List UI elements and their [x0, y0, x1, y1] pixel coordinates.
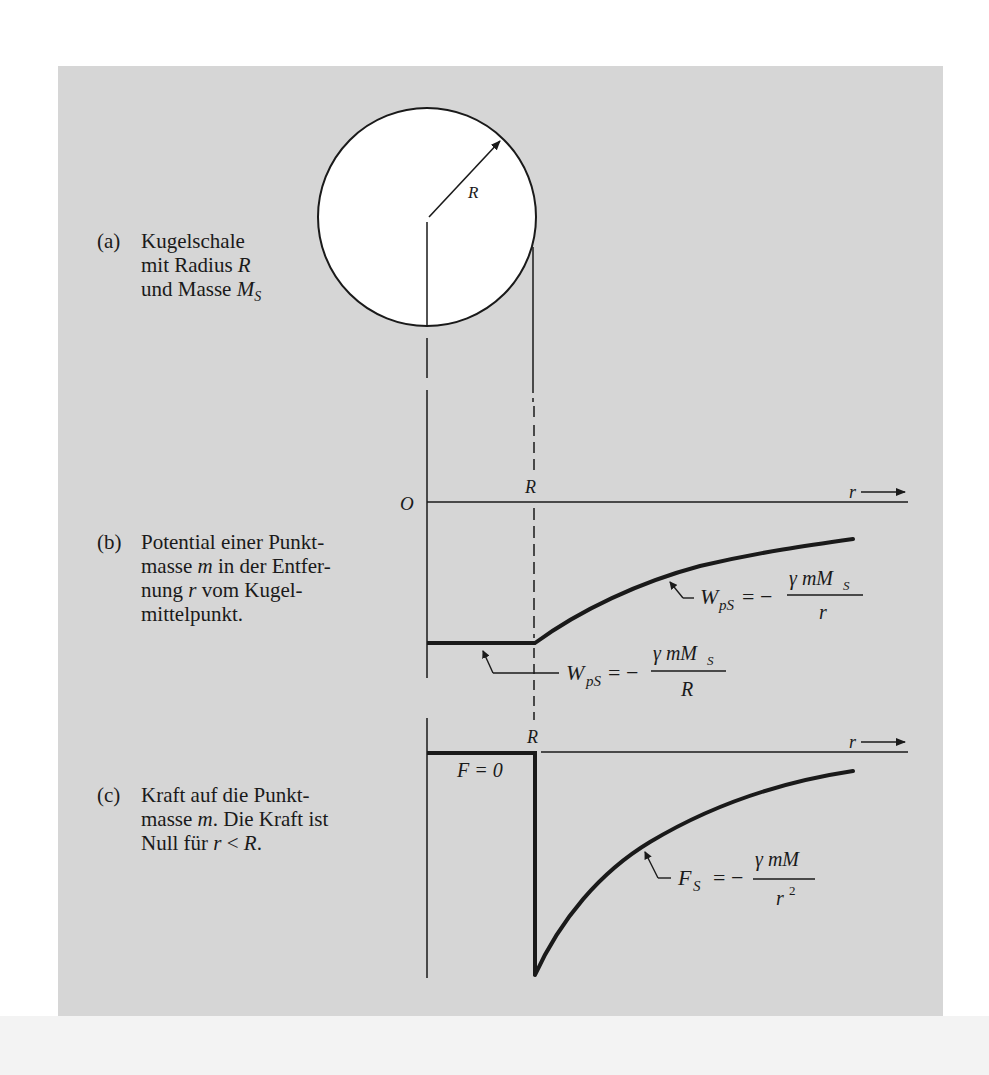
potential-plot: O R r W pS = − γ mM S r W pS = − γ mM [400, 477, 908, 700]
force-curve [535, 771, 853, 975]
svg-text:= −: = − [608, 660, 638, 685]
force-r-label: r [849, 732, 857, 752]
caption-a-tag: (a) [97, 229, 120, 253]
svg-text:r: r [776, 887, 784, 909]
force-zero-label: F = 0 [456, 759, 503, 781]
svg-text:R: R [680, 678, 693, 700]
svg-text:pS: pS [585, 673, 602, 689]
force-R-tick-label: R [526, 727, 538, 747]
formula-force: F S = − γ mM r 2 [677, 848, 815, 909]
caption-b-tag: (b) [97, 530, 122, 554]
svg-text:W: W [700, 584, 720, 609]
radius-label: R [467, 183, 479, 202]
caption-a: (a) Kugelschale mit Radius R und Masse M… [97, 229, 261, 309]
origin-label: O [400, 493, 414, 514]
svg-text:S: S [693, 878, 701, 894]
svg-text:= −: = − [742, 584, 772, 609]
svg-text:γ mM: γ mM [755, 848, 800, 871]
svg-text:S: S [843, 578, 850, 593]
svg-text:= −: = − [713, 865, 743, 890]
svg-text:W: W [566, 660, 586, 685]
svg-text:γ mM: γ mM [789, 567, 834, 590]
potential-r-label: r [849, 482, 857, 502]
formula-potential-inside: W pS = − γ mM S R [566, 642, 726, 700]
caption-b: (b) Potential einer Punkt- masse m in de… [97, 530, 331, 626]
svg-text:pS: pS [718, 597, 735, 613]
force-zero-line [427, 753, 535, 975]
svg-text:S: S [707, 653, 714, 668]
potential-R-tick-label: R [524, 477, 536, 497]
formula-potential-outside: W pS = − γ mM S r [700, 567, 863, 623]
svg-text:2: 2 [789, 883, 796, 898]
svg-text:r: r [819, 601, 827, 623]
svg-text:F: F [677, 865, 692, 890]
caption-c-tag: (c) [97, 783, 120, 807]
force-plot: R r F = 0 F S = − γ mM r 2 [427, 718, 908, 978]
caption-c: (c) Kraft auf die Punkt- masse m. Die Kr… [97, 783, 328, 855]
svg-text:γ mM: γ mM [653, 642, 698, 665]
potential-outside-curve [535, 539, 853, 643]
